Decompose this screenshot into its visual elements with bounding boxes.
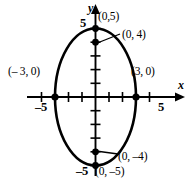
point-minus-3-0: [51, 93, 58, 100]
y-axis-tick-label-minus-5: –5: [76, 165, 88, 178]
point-label-0-5: (0,5): [98, 11, 119, 23]
y-axis-label: y: [88, 2, 93, 14]
x-axis-tick-label-minus-5: –5: [35, 101, 47, 114]
point-0-4: [92, 39, 99, 46]
point-label-0-4: (0, 4): [122, 29, 146, 41]
y-axis-tick-label-5: 5: [80, 17, 86, 30]
point-3-0: [132, 93, 139, 100]
x-axis-tick-label-5: 5: [158, 101, 164, 114]
point-label-minus-3-0: (– 3, 0): [8, 66, 40, 78]
x-axis-label: x: [178, 79, 184, 91]
point-label-3-0: (3, 0): [131, 66, 155, 78]
ellipse-graph-figure: (0,5) (0, 4) (3, 0) (– 3, 0) (0, –4) (0,…: [0, 0, 195, 192]
point-0-5: [92, 25, 99, 32]
point-label-0-minus-4: (0, –4): [118, 151, 147, 163]
graph-canvas: [0, 0, 195, 192]
point-0-minus-4: [92, 148, 99, 155]
point-label-0-minus-5: (0, –5): [95, 166, 124, 178]
